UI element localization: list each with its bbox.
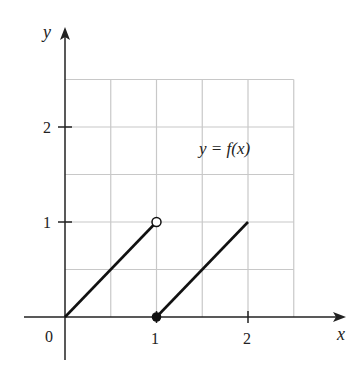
open-circle-marker-end (152, 218, 161, 227)
y-axis-label: y (41, 22, 51, 42)
y-tick-label-2: 2 (43, 119, 51, 136)
x-tick-label-2: 2 (243, 330, 251, 347)
piecewise-function-chart: x y 0 1 2 1 2 y = f(x) (0, 0, 362, 380)
y-tick-label-1: 1 (43, 214, 51, 231)
x-axis-label: x (336, 324, 345, 344)
filled-circle-marker-start (152, 312, 162, 322)
x-tick-label-1: 1 (151, 330, 159, 347)
function-annotation: y = f(x) (197, 139, 250, 158)
origin-label: 0 (45, 328, 53, 345)
